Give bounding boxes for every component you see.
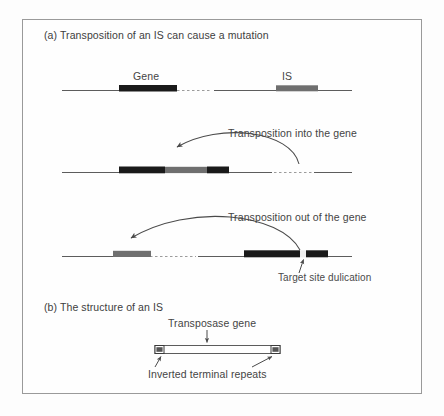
caption-target-site-duplication: Target site dulication — [278, 273, 371, 283]
gene-label: Gene — [133, 71, 159, 82]
caption-transposition-out-of-gene: Transposition out of the gene — [228, 212, 367, 223]
panel-a-title: (a) Transposition of an IS can cause a m… — [44, 30, 269, 41]
label-transposase-gene: Transposase gene — [168, 318, 256, 329]
caption-transposition-into-gene: Transposition into the gene — [228, 128, 357, 139]
panel-b-title: (b) The structure of an IS — [44, 302, 163, 313]
figure-page: (a) Transposition of an IS can cause a m… — [0, 0, 444, 416]
is-label: IS — [282, 71, 292, 82]
label-inverted-terminal-repeats: Inverted terminal repeats — [148, 369, 267, 380]
figure-frame — [22, 19, 422, 394]
